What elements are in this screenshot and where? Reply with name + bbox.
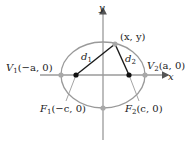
d1-label: d1 [81, 51, 92, 64]
f1-coords: (−c, 0) [51, 103, 86, 114]
d2-sub: 2 [131, 58, 135, 66]
f1-label: F1(−c, 0) [39, 103, 86, 116]
v1-coords: (−a, 0) [18, 62, 53, 73]
x-axis-label: x [168, 71, 174, 82]
f2-label: F2(c, 0) [124, 103, 163, 116]
v1-label: V1(−a, 0) [6, 62, 53, 75]
y-axis-label: y [98, 2, 105, 13]
d1-sub: 1 [87, 56, 91, 64]
point-xy-label: (x, y) [120, 31, 146, 42]
v2-label: V2(a, 0) [147, 60, 185, 73]
ellipse-diagram: y x (x, y) d1 d2 V1(−a, 0) V2(a, 0) F1(−… [0, 0, 186, 143]
vertex-v1-dot [58, 72, 63, 77]
f2-coords: (c, 0) [136, 103, 162, 114]
vertex-v2-dot [142, 72, 147, 77]
focus-f2-dot [126, 72, 131, 77]
v2-coords: (a, 0) [159, 60, 186, 71]
focus-f1-dot [73, 72, 78, 77]
d2-label: d2 [125, 53, 136, 66]
point-xy-dot [112, 41, 117, 46]
covertex-bottom-dot [100, 105, 105, 110]
